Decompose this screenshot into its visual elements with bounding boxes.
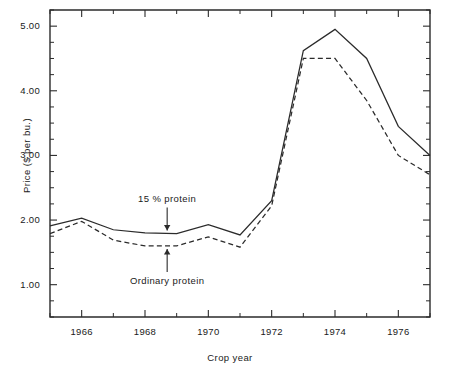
plot-frame bbox=[50, 10, 430, 317]
y-tick-label: 4.00 bbox=[6, 85, 40, 96]
series-annotation-label: 15 % protein bbox=[107, 193, 227, 204]
y-axis-ticks bbox=[50, 10, 430, 317]
x-tick-label: 1974 bbox=[315, 326, 355, 337]
annotation-arrows bbox=[164, 207, 170, 271]
plot-area bbox=[0, 0, 451, 375]
x-tick-label: 1970 bbox=[188, 326, 228, 337]
price-crop-year-line-chart: 1.002.003.004.005.00 1966196819701972197… bbox=[0, 0, 451, 375]
x-axis-ticks bbox=[50, 10, 430, 317]
y-tick-label: 5.00 bbox=[6, 20, 40, 31]
series-lines bbox=[50, 29, 430, 247]
x-tick-label: 1972 bbox=[252, 326, 292, 337]
x-axis-title: Crop year bbox=[185, 352, 275, 363]
x-tick-label: 1966 bbox=[62, 326, 102, 337]
y-tick-label: 2.00 bbox=[6, 214, 40, 225]
series-line bbox=[50, 58, 430, 247]
y-axis-title: Price ($ per bu.) bbox=[21, 101, 32, 211]
series-annotation-label: Ordinary protein bbox=[107, 275, 227, 286]
x-tick-label: 1976 bbox=[378, 326, 418, 337]
x-tick-label: 1968 bbox=[125, 326, 165, 337]
y-tick-label: 1.00 bbox=[6, 279, 40, 290]
